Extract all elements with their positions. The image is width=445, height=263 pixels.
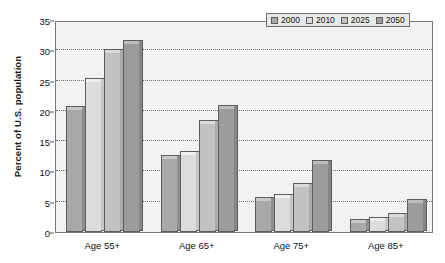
y-axis-tick-mark bbox=[50, 233, 54, 234]
y-axis-tick-label: 15 bbox=[24, 137, 50, 148]
legend-swatch-icon bbox=[341, 17, 348, 24]
x-axis-tick-label: Age 85+ bbox=[346, 240, 426, 251]
bar-side-face bbox=[423, 199, 427, 231]
y-axis-tick-mark bbox=[50, 81, 54, 82]
bar bbox=[369, 220, 386, 232]
y-axis-tick-label: 25 bbox=[24, 76, 50, 87]
bar bbox=[388, 216, 405, 232]
legend-label: 2000 bbox=[281, 16, 300, 25]
x-axis-tick-label: Age 55+ bbox=[62, 240, 142, 251]
y-axis-tick-label: 35 bbox=[24, 16, 50, 27]
y-axis-tick-label: 30 bbox=[24, 46, 50, 57]
legend-item: 2050 bbox=[376, 16, 405, 25]
y-axis-tick-label: 20 bbox=[24, 106, 50, 117]
y-axis-title: Percent of U.S. population bbox=[10, 0, 26, 233]
legend-item: 2000 bbox=[271, 16, 300, 25]
legend-label: 2010 bbox=[316, 16, 335, 25]
y-axis-tick-mark bbox=[50, 142, 54, 143]
x-axis-tick-label: Age 75+ bbox=[251, 240, 331, 251]
y-axis-tick-mark bbox=[50, 111, 54, 112]
y-axis-tick-label: 0 bbox=[24, 228, 50, 239]
y-axis-tick-mark bbox=[50, 202, 54, 203]
bar bbox=[350, 222, 367, 232]
y-axis-tick-mark bbox=[50, 51, 54, 52]
y-axis-tick-mark bbox=[50, 21, 54, 22]
legend-item: 2025 bbox=[341, 16, 370, 25]
y-axis-tick-label: 10 bbox=[24, 167, 50, 178]
y-axis-tick-mark bbox=[50, 172, 54, 173]
legend-swatch-icon bbox=[376, 17, 383, 24]
legend-item: 2010 bbox=[306, 16, 335, 25]
bar bbox=[407, 202, 424, 232]
legend-swatch-icon bbox=[306, 17, 313, 24]
legend-swatch-icon bbox=[271, 17, 278, 24]
legend-label: 2050 bbox=[386, 16, 405, 25]
x-axis-tick-label: Age 65+ bbox=[157, 240, 237, 251]
bar-chart: Percent of U.S. population 0510152025303… bbox=[0, 0, 445, 263]
y-axis-tick-label: 5 bbox=[24, 197, 50, 208]
plot-area bbox=[55, 21, 433, 233]
chart-legend: 2000201020252050 bbox=[266, 13, 410, 27]
y-axis-title-label: Percent of U.S. population bbox=[13, 56, 24, 177]
legend-label: 2025 bbox=[351, 16, 370, 25]
bar-group bbox=[56, 22, 434, 232]
